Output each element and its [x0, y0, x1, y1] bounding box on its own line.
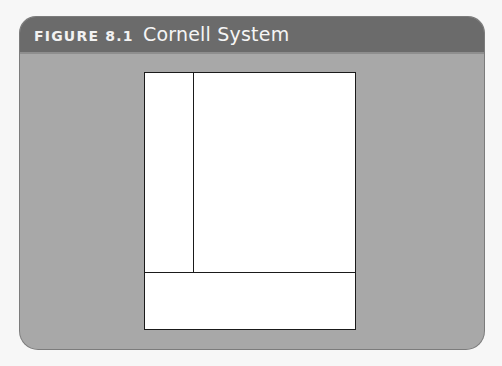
figure-header: FIGURE 8.1 Cornell System — [20, 17, 484, 54]
notes-area — [194, 73, 355, 272]
figure-title: Cornell System — [143, 22, 289, 46]
summary-area — [145, 272, 355, 329]
cornell-page-diagram — [144, 72, 356, 330]
figure-number: FIGURE 8.1 — [34, 27, 134, 45]
figure-card: FIGURE 8.1 Cornell System — [20, 17, 484, 349]
cue-column — [145, 73, 194, 272]
